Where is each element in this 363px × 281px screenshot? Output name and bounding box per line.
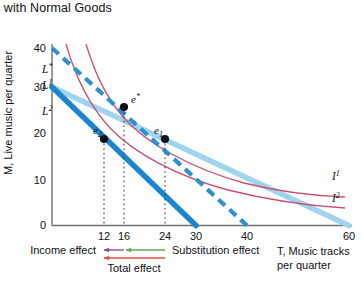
- figure-container: cts with Normal Goods M, Live music per …: [0, 0, 363, 281]
- y-tick-0: 0: [40, 219, 46, 231]
- point-label-e-star: e*: [131, 92, 140, 105]
- y-tick-20: 20: [34, 127, 46, 139]
- x-axis-label-line2: per quarter: [277, 259, 331, 271]
- point-label-e2: e2: [93, 124, 102, 139]
- budget-line-L-star: [52, 48, 247, 226]
- y-axis-label: M, Live music per quarter: [2, 51, 14, 175]
- x-tick-16: 16: [118, 230, 130, 242]
- substitution-effect-label: Substitution effect: [172, 244, 259, 256]
- total-effect-label: Total effect: [108, 262, 161, 274]
- indifference-curve-label-I2: I2: [331, 191, 340, 204]
- indifference-curve-label-I1: I1: [331, 169, 340, 182]
- budget-line-label-L2: L2: [41, 104, 52, 117]
- x-tick-40: 40: [241, 230, 253, 242]
- indifference-curve-I2: [66, 44, 345, 208]
- x-tick-60: 60: [343, 230, 355, 242]
- y-tick-10: 10: [34, 174, 46, 186]
- x-tick-24: 24: [159, 230, 171, 242]
- y-tick-40: 40: [34, 42, 46, 54]
- x-tick-30: 30: [190, 230, 202, 242]
- point-e-star[interactable]: [120, 103, 128, 111]
- income-effect-label: Income effect: [30, 244, 96, 256]
- chart-canvas: M, Live music per quarter 40 30 20 10 0 …: [0, 0, 363, 281]
- budget-line-label-L-star: L*: [41, 62, 52, 75]
- x-tick-12: 12: [98, 230, 110, 242]
- x-axis-label-line1: T, Music tracks: [277, 245, 350, 257]
